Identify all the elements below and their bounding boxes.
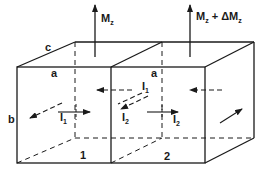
dimension-b-label: b (8, 114, 15, 125)
current-label-i2-diagonal: I2 (122, 112, 129, 123)
magnetic-cells-diagram (0, 0, 265, 192)
moment-label-2: Mz + ΔMz (196, 11, 242, 22)
current-arrow-right-face (220, 109, 242, 123)
top-divider-edge (111, 42, 162, 67)
current-arrow-left-face (30, 103, 62, 118)
hidden-bottom-divider (111, 138, 162, 163)
dimension-a-label: a (51, 68, 57, 79)
current-label-i1-diagonal: I1 (142, 81, 149, 92)
current-arrow-i1-diagonal (118, 93, 142, 104)
cell-number-1: 1 (80, 150, 86, 161)
current-label-i2-front: I2 (173, 114, 180, 125)
dimension-c-label: c (45, 42, 51, 53)
right-bottom-edge (205, 138, 254, 163)
current-label-i1-front: I1 (60, 112, 67, 123)
current-arrow-i2-diagonal (121, 96, 148, 109)
hidden-bottom-left (17, 138, 75, 163)
cell-number-2: 2 (164, 151, 170, 162)
top-right-edge (205, 42, 254, 67)
moment-label-1: Mz (101, 13, 114, 24)
dimension-a-label-2: a (151, 68, 157, 79)
